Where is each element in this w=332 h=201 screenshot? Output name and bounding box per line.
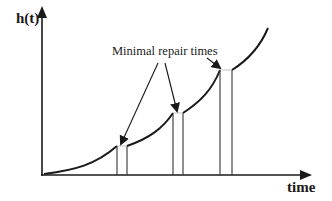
arrow-to-repair-3	[207, 58, 220, 68]
curve-segment-2	[127, 113, 173, 146]
annotation-label: Minimal repair times	[112, 44, 218, 59]
repair-interval-1	[117, 146, 127, 175]
y-axis-label: h(t)	[16, 10, 39, 27]
annotation-arrows	[121, 58, 220, 144]
repair-interval-2	[173, 113, 183, 175]
arrow-to-repair-1	[121, 63, 158, 144]
repair-interval-3	[220, 70, 232, 175]
curve-segment-3	[183, 70, 220, 113]
hazard-rate-diagram: h(t) time Minimal repair times	[0, 0, 332, 201]
curve-segment-4	[232, 28, 268, 70]
x-axis-label: time	[287, 179, 315, 196]
repair-intervals	[117, 70, 232, 175]
arrow-to-repair-2	[165, 63, 177, 111]
curve-segment-1	[44, 146, 117, 174]
diagram-graphic	[0, 0, 332, 201]
